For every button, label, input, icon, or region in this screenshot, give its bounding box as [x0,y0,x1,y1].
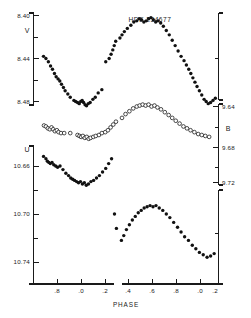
b-axis-spine-upper [219,13,224,100]
data-point-u [122,234,125,237]
data-point-u [120,239,123,242]
data-point-v [94,96,97,99]
data-point-u [161,209,164,212]
data-point-u [165,212,168,215]
data-point-v [120,33,123,36]
data-point-v [171,39,174,42]
data-point-u [172,221,175,224]
x-axis-title: PHASE [113,301,139,308]
data-point-b [114,120,118,124]
data-point-v [193,80,196,83]
data-point-v [123,30,126,33]
b-ticklabel-968: 9.68 [222,144,235,151]
data-point-v [62,86,65,89]
data-point-u [110,157,113,160]
light-curve-figure: 8.40 8.44 8.48 V 10.66 10.70 10.74 U [0,0,251,318]
data-point-u [87,182,90,185]
data-point-u [98,174,101,177]
data-point-u [194,247,197,250]
data-point-b [167,113,171,117]
series-u-points [42,155,216,259]
data-point-v [168,33,171,36]
data-point-v [179,55,182,58]
data-point-u [125,228,128,231]
u-axis-group: 10.66 10.70 10.74 U [14,146,39,284]
data-point-v [176,49,179,52]
data-point-u [142,206,145,209]
series-v-points [42,16,217,108]
data-point-b [131,107,135,111]
b-axis-spine-lower [219,190,224,284]
b-axis-group: 9.64 9.68 9.72 B [213,13,235,284]
data-point-b [170,116,174,120]
x-axis-left-segment: .8 .0 .2 [34,279,115,294]
data-point-u [137,211,140,214]
data-point-v [111,48,114,51]
data-point-u [151,205,154,208]
data-point-u [92,179,95,182]
data-point-b [156,106,160,110]
data-point-u [101,170,104,173]
v-ticklabel-844: 8.44 [17,55,30,62]
data-point-v [185,63,188,66]
data-point-u [209,254,212,257]
data-point-v [118,36,121,39]
data-point-v [195,85,198,88]
x-ticklabel-l2: .2 [102,287,108,294]
data-point-u [168,216,171,219]
data-point-u [148,204,151,207]
data-point-v [44,57,47,60]
data-point-u [42,155,45,158]
v-axis-group: 8.40 8.44 8.48 V [17,12,39,105]
data-point-u [107,162,110,165]
v-ticklabel-848: 8.48 [17,98,30,105]
x-ticklabel-r1: .6 [149,287,155,294]
x-ticklabel-r3: .0 [197,287,203,294]
data-point-b [207,135,211,139]
v-ticklabel-840: 8.40 [17,12,30,19]
x-ticklabel-r2: .8 [173,287,179,294]
data-point-v [214,97,217,100]
data-point-b [178,122,182,126]
data-point-v [69,96,72,99]
data-point-u [154,204,157,207]
data-point-v [182,59,185,62]
data-point-v [63,89,66,92]
data-point-b [200,133,204,137]
data-point-u [61,168,64,171]
data-point-b [193,130,197,134]
data-point-u [58,164,61,167]
data-point-b [203,134,207,138]
data-point-u [179,230,182,233]
data-point-b [124,112,128,116]
plot-canvas: 8.40 8.44 8.48 V 10.66 10.70 10.74 U [0,0,251,318]
data-point-v [113,44,116,47]
data-point-b [174,119,178,123]
data-point-b [128,109,132,113]
data-point-b [62,131,66,135]
data-point-v [191,76,194,79]
data-point-b [120,116,124,120]
v-band-label: V [25,27,30,34]
data-point-b [159,108,163,112]
data-point-v [159,21,162,24]
data-point-u [187,239,190,242]
u-ticklabel-1070: 10.70 [14,210,31,217]
x-ticklabel-l0: .8 [54,287,60,294]
data-point-v [132,20,135,23]
x-ticklabel-l1: .0 [78,287,84,294]
data-point-u [176,226,179,229]
data-point-u [198,251,201,254]
data-point-b [68,131,72,135]
data-point-u [145,205,148,208]
data-point-u [158,206,161,209]
data-point-u [212,252,215,255]
data-point-b [163,110,167,114]
data-point-v [109,53,112,56]
data-point-u [128,223,131,226]
x-ticklabel-r4: .2 [212,287,218,294]
data-point-v [107,57,110,60]
data-point-v [129,23,132,26]
x-ticklabel-r0: .4 [125,287,131,294]
data-point-u [183,235,186,238]
